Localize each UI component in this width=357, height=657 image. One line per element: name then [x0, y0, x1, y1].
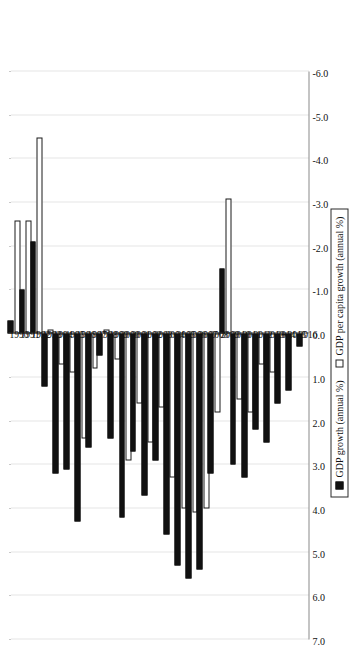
- bar-gdp-growth: [152, 333, 158, 460]
- bar-gdp-per-capita-growth: [225, 198, 231, 333]
- bar-gdp-growth: [41, 333, 47, 385]
- gridline: [8, 200, 308, 202]
- bar-gdp-growth: [241, 333, 247, 477]
- value-axis-line: [308, 71, 309, 639]
- legend-swatch-hollow-icon: [335, 359, 343, 367]
- gridline: [8, 506, 308, 508]
- value-tick-label: -1.0: [312, 285, 328, 296]
- bar-gdp-growth: [130, 333, 136, 451]
- bar-gdp-growth: [107, 333, 113, 438]
- bar-gdp-growth: [252, 333, 258, 429]
- bar-gdp-growth: [274, 333, 280, 403]
- gridline: [8, 637, 308, 639]
- value-tick-label: -6.0: [312, 67, 328, 78]
- bar-gdp-growth: [141, 333, 147, 495]
- value-tick-label: -3.0: [312, 198, 328, 209]
- value-tick-label: -2.0: [312, 242, 328, 253]
- gridline: [8, 244, 308, 246]
- value-tick-label: 1.0: [312, 373, 325, 384]
- bar-gdp-growth: [285, 333, 291, 390]
- bar-gdp-growth: [119, 333, 125, 517]
- legend-entry-gdp-growth: GDP growth (annual %): [333, 380, 344, 489]
- bar-gdp-growth: [63, 333, 69, 468]
- bar-gdp-growth: [52, 333, 58, 473]
- bar-gdp-growth: [19, 289, 25, 333]
- bar-gdp-per-capita-growth: [214, 333, 220, 412]
- bar-gdp-growth: [74, 333, 80, 521]
- value-tick-label: 7.0: [312, 635, 325, 646]
- value-tick-label: 2.0: [312, 417, 325, 428]
- gridline: [8, 287, 308, 289]
- gridline: [8, 550, 308, 552]
- value-tick-label: 4.0: [312, 504, 325, 515]
- gridline: [8, 113, 308, 115]
- bar-gdp-growth: [263, 333, 269, 442]
- value-tick-label: -5.0: [312, 111, 328, 122]
- bar-gdp-growth: [219, 268, 225, 334]
- chart-figure: 1990199119921993199419951996199719981999…: [0, 0, 357, 657]
- plot-area: 1990199119921993199419951996199719981999…: [8, 71, 308, 639]
- gridline: [8, 69, 308, 71]
- legend-label-gdp-growth: GDP growth (annual %): [333, 380, 344, 477]
- value-tick-label: 6.0: [312, 591, 325, 602]
- bar-gdp-growth: [163, 333, 169, 534]
- bar-gdp-growth: [85, 333, 91, 447]
- legend-entry-gdp-per-capita: GDP per capita growth (annual %): [333, 216, 344, 367]
- bar-gdp-growth: [30, 241, 36, 333]
- bar-gdp-growth: [185, 333, 191, 578]
- legend-label-gdp-per-capita: GDP per capita growth (annual %): [333, 216, 344, 355]
- chart-legend: GDP growth (annual %) GDP per capita gro…: [330, 208, 348, 497]
- gridline: [8, 593, 308, 595]
- bar-gdp-growth: [207, 333, 213, 473]
- gridline: [8, 156, 308, 158]
- bar-gdp-growth: [196, 333, 202, 569]
- value-tick-label: 5.0: [312, 548, 325, 559]
- bar-gdp-growth: [230, 333, 236, 464]
- bar-gdp-per-capita-growth: [36, 137, 42, 334]
- bar-gdp-growth: [174, 333, 180, 565]
- value-tick-label: -4.0: [312, 154, 328, 165]
- legend-swatch-filled-icon: [335, 481, 343, 489]
- category-label-2016: 2016: [298, 329, 317, 339]
- value-tick-label: 3.0: [312, 460, 325, 471]
